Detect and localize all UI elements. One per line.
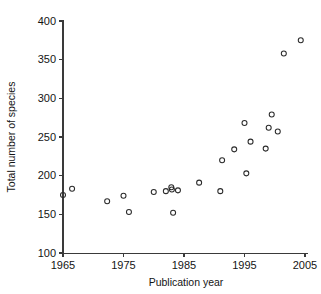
data-point — [298, 38, 303, 43]
data-point — [248, 139, 253, 144]
y-axis: 100150200250300350400 — [38, 15, 63, 259]
data-point — [242, 121, 247, 126]
data-point — [197, 180, 202, 185]
y-tick-label: 350 — [38, 53, 56, 65]
x-axis-title: Publication year — [149, 276, 224, 288]
data-point — [175, 188, 180, 193]
x-tick-label: 1965 — [51, 259, 75, 271]
data-point — [244, 171, 249, 176]
data-point — [275, 129, 280, 134]
y-axis-title: Total number of species — [5, 82, 17, 193]
x-tick-label: 1985 — [172, 259, 196, 271]
data-point — [163, 189, 168, 194]
x-tick-label: 1995 — [232, 259, 256, 271]
data-point — [266, 125, 271, 130]
scatter-plot-figure: 100150200250300350400 196519751985199520… — [0, 0, 321, 294]
data-point — [121, 193, 126, 198]
y-tick-label: 250 — [38, 131, 56, 143]
data-point — [151, 189, 156, 194]
y-tick-label: 300 — [38, 92, 56, 104]
x-axis: 19651975198519952005 — [51, 253, 317, 271]
data-point — [126, 210, 131, 215]
y-tick-label: 100 — [38, 247, 56, 259]
y-tick-label: 200 — [38, 169, 56, 181]
data-point — [232, 147, 237, 152]
data-point — [263, 146, 268, 151]
x-tick-labels: 19651975198519952005 — [51, 259, 317, 271]
y-tick-labels: 100150200250300350400 — [38, 15, 56, 259]
data-point — [70, 186, 75, 191]
data-point — [220, 158, 225, 163]
plot-canvas: 100150200250300350400 196519751985199520… — [0, 0, 321, 294]
y-tick-label: 150 — [38, 208, 56, 220]
data-point — [105, 199, 110, 204]
data-point — [171, 210, 176, 215]
x-tick-label: 1975 — [111, 259, 135, 271]
data-points-layer — [61, 38, 304, 215]
y-tick-marks — [59, 21, 63, 253]
data-point — [281, 51, 286, 56]
data-point — [218, 189, 223, 194]
x-tick-label: 2005 — [293, 259, 317, 271]
data-point — [269, 112, 274, 117]
y-tick-label: 400 — [38, 15, 56, 27]
